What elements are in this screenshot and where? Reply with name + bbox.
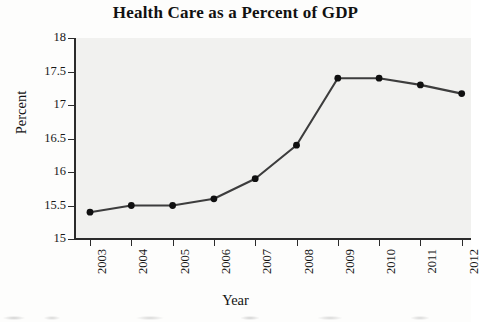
y-axis-title: Percent xyxy=(13,68,30,158)
y-tick-mark xyxy=(68,239,75,240)
x-tick-mark xyxy=(420,240,421,246)
data-point xyxy=(293,142,300,149)
data-point xyxy=(252,175,259,182)
x-tick-label: 2005 xyxy=(179,249,192,274)
data-line xyxy=(90,78,462,212)
data-point xyxy=(169,202,176,209)
x-axis-title: Year xyxy=(0,292,471,309)
x-axis-line xyxy=(74,238,471,240)
data-point xyxy=(376,75,383,82)
line-series-svg xyxy=(76,38,471,239)
x-tick-label: 2003 xyxy=(96,249,109,274)
x-tick-label: 2006 xyxy=(220,249,233,274)
y-tick-mark xyxy=(68,139,75,140)
y-tick-label: 16.5 xyxy=(44,132,66,145)
y-tick-label: 18 xyxy=(54,31,67,44)
data-markers xyxy=(87,75,466,216)
x-tick-label: 2004 xyxy=(137,249,150,274)
data-point xyxy=(211,195,218,202)
x-tick-label: 2008 xyxy=(303,249,316,274)
x-tick-label: 2009 xyxy=(344,249,357,274)
scan-artifact xyxy=(0,314,471,322)
y-tick-mark xyxy=(68,172,75,173)
data-point xyxy=(128,202,135,209)
x-tick-mark xyxy=(338,240,339,246)
x-tick-mark xyxy=(255,240,256,246)
y-tick-mark xyxy=(68,105,75,106)
x-tick-mark xyxy=(214,240,215,246)
data-point xyxy=(417,82,424,89)
data-point xyxy=(334,75,341,82)
y-tick-label: 17 xyxy=(54,98,67,111)
plot-area xyxy=(76,38,471,239)
data-point xyxy=(87,209,94,216)
x-tick-mark xyxy=(297,240,298,246)
y-tick-label: 16 xyxy=(54,165,67,178)
x-tick-label: 2007 xyxy=(261,249,274,274)
y-tick-mark xyxy=(68,206,75,207)
y-tick-label: 15 xyxy=(54,232,67,245)
y-tick-mark xyxy=(68,72,75,73)
data-point xyxy=(458,90,465,97)
x-tick-label: 2011 xyxy=(426,249,439,274)
x-tick-mark xyxy=(379,240,380,246)
chart-title: Health Care as a Percent of GDP xyxy=(0,3,471,23)
y-tick-mark xyxy=(68,38,75,39)
x-tick-mark xyxy=(90,240,91,246)
x-tick-label: 2010 xyxy=(385,249,398,274)
y-tick-label: 15.5 xyxy=(44,199,66,212)
y-tick-label: 17.5 xyxy=(44,65,66,78)
x-tick-mark xyxy=(462,240,463,246)
x-tick-mark xyxy=(173,240,174,246)
x-tick-label: 2012 xyxy=(468,249,481,274)
x-tick-mark xyxy=(131,240,132,246)
